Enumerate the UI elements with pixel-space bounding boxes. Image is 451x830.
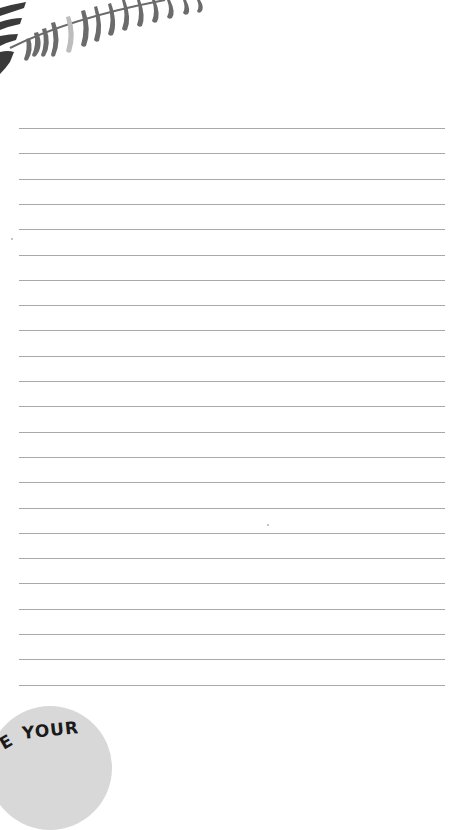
writing-line	[19, 356, 445, 357]
badge-text: YOUR	[21, 717, 80, 743]
writing-lines	[19, 0, 445, 745]
writing-line	[19, 406, 445, 407]
writing-line	[19, 128, 445, 129]
writing-line	[19, 583, 445, 584]
writing-line	[19, 609, 445, 610]
writing-line	[19, 457, 445, 458]
writing-line	[19, 330, 445, 331]
paper-speck	[11, 238, 13, 240]
writing-line	[19, 204, 445, 205]
writing-line	[19, 685, 445, 686]
writing-line	[19, 508, 445, 509]
writing-line	[19, 179, 445, 180]
writing-line	[19, 229, 445, 230]
writing-line	[19, 432, 445, 433]
writing-line	[19, 659, 445, 660]
writing-line	[19, 153, 445, 154]
writing-line	[19, 533, 445, 534]
writing-line	[19, 280, 445, 281]
writing-line	[19, 634, 445, 635]
circle-badge: E YOUR	[0, 706, 112, 830]
writing-line	[19, 482, 445, 483]
writing-line	[19, 558, 445, 559]
writing-line	[19, 305, 445, 306]
paper-speck	[267, 524, 269, 526]
writing-line	[19, 381, 445, 382]
badge-prefix-text: E	[0, 730, 16, 753]
writing-line	[19, 255, 445, 256]
